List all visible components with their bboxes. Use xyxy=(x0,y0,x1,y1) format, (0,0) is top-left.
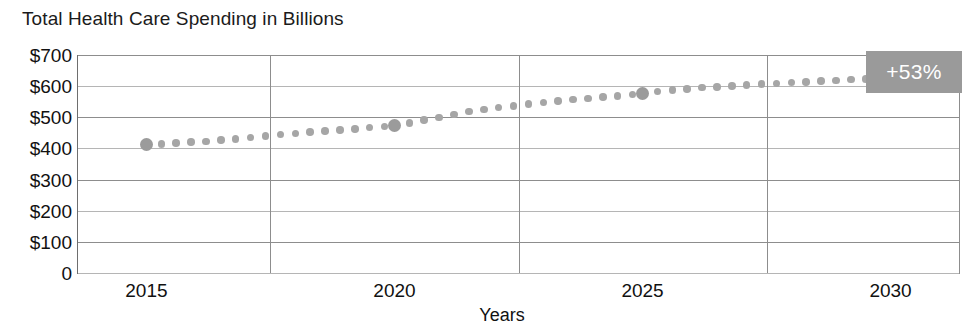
series-point xyxy=(599,93,607,101)
series-point xyxy=(713,83,721,91)
series-point xyxy=(292,130,300,138)
x-axis-title: Years xyxy=(0,305,974,325)
series-point xyxy=(336,126,344,134)
series-point xyxy=(450,111,458,119)
series-point xyxy=(232,135,240,143)
series-point xyxy=(554,97,562,105)
series-point xyxy=(351,125,359,133)
series-point xyxy=(217,136,225,144)
series-point-major xyxy=(636,87,649,100)
series-point xyxy=(277,131,285,139)
series-point-major xyxy=(140,138,153,151)
series-point xyxy=(247,134,255,142)
series-point-major xyxy=(388,119,401,132)
series-point xyxy=(569,96,577,104)
series-point xyxy=(495,104,503,112)
series-point xyxy=(158,140,166,148)
x-tick-label-2030: 2030 xyxy=(846,281,936,301)
series-point xyxy=(480,106,488,114)
series-point xyxy=(465,108,473,116)
series-point xyxy=(202,138,210,146)
series-point xyxy=(614,92,622,100)
series-point xyxy=(406,119,414,127)
series-point xyxy=(366,124,374,132)
gridline-x-2027.5 xyxy=(767,55,768,273)
series-point xyxy=(540,99,548,107)
series-point xyxy=(802,78,810,86)
y-tick-label-600: $600 xyxy=(4,77,72,96)
series-point xyxy=(262,132,270,140)
series-point xyxy=(847,76,855,84)
x-axis-title-text: Years xyxy=(479,305,524,325)
y-tick-label-200: $200 xyxy=(4,202,72,221)
y-tick-label-100: $100 xyxy=(4,233,72,252)
series-point xyxy=(654,88,662,96)
series-point xyxy=(306,128,314,136)
series-point xyxy=(832,77,840,85)
y-tick-label-500: $500 xyxy=(4,108,72,127)
y-tick-label-400: $400 xyxy=(4,139,72,158)
series-point xyxy=(435,114,443,122)
gridline-x-2017.5 xyxy=(270,55,271,273)
y-tick-label-300: $300 xyxy=(4,171,72,190)
growth-callout-badge: +53% xyxy=(866,51,962,93)
y-axis-tick-labels: $700$600$500$400$300$200$1000 xyxy=(0,0,72,336)
series-point xyxy=(525,100,533,108)
series-point xyxy=(669,86,677,94)
y-axis-line xyxy=(77,55,78,274)
y-tick-label-0: 0 xyxy=(4,264,72,283)
series-point xyxy=(172,139,180,147)
series-point xyxy=(510,102,518,110)
series-point xyxy=(743,81,751,89)
x-tick-label-2020: 2020 xyxy=(349,281,439,301)
series-point xyxy=(817,77,825,85)
series-point xyxy=(321,127,329,135)
series-point xyxy=(584,95,592,103)
gridline-y-0 xyxy=(77,273,960,274)
series-point xyxy=(187,138,195,146)
x-tick-label-2025: 2025 xyxy=(598,281,688,301)
plot-area xyxy=(77,55,960,273)
y-tick-label-700: $700 xyxy=(4,46,72,65)
x-tick-label-2015: 2015 xyxy=(101,281,191,301)
series-point xyxy=(683,85,691,93)
series-point xyxy=(758,80,766,88)
series-point xyxy=(420,116,428,124)
health-care-spending-chart: Total Health Care Spending in Billions $… xyxy=(0,0,974,336)
series-point xyxy=(698,84,706,92)
series-point xyxy=(728,82,736,90)
gridline-x-2022.5 xyxy=(519,55,520,273)
